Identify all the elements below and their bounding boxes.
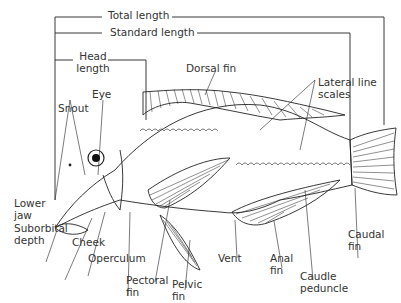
pectoral-fin bbox=[148, 158, 230, 208]
lateral-line-scales-label: Lateral line scales bbox=[318, 76, 380, 100]
lower-lateral-line bbox=[236, 163, 350, 165]
standard-length-label: Standard length bbox=[108, 26, 197, 38]
caudle-peduncle-label: Caudle peduncle bbox=[300, 270, 352, 294]
fish-anatomy-diagram: Total length Standard length Head length… bbox=[0, 0, 401, 303]
suborbital-depth-label: Suborbital depth bbox=[14, 222, 64, 246]
eye-label: Eye bbox=[92, 88, 111, 100]
dorsal-fin-label: Dorsal fin bbox=[186, 62, 236, 74]
snout-label: Snout bbox=[58, 102, 89, 114]
fish-body-outline bbox=[55, 104, 352, 228]
pelvic-fin-label: Pelvic fin bbox=[172, 278, 200, 302]
anal-fin bbox=[232, 180, 340, 225]
eye-pupil bbox=[92, 154, 100, 162]
vent-label: Vent bbox=[218, 252, 242, 264]
pectoral-fin-label: Pectoral fin bbox=[126, 274, 170, 298]
upper-lateral-line bbox=[140, 129, 218, 131]
lower-jaw-label: Lower jaw bbox=[14, 197, 44, 221]
fish-illustration bbox=[0, 0, 401, 303]
caudal-fin-label: Caudal fin bbox=[348, 228, 382, 252]
operculum-label: Operculum bbox=[88, 252, 146, 264]
operculum-edge bbox=[120, 150, 123, 210]
total-length-label: Total length bbox=[106, 9, 171, 21]
anal-fin-label: Anal fin bbox=[270, 252, 296, 276]
cheek-label: Cheek bbox=[72, 236, 105, 248]
head-length-label: Head length bbox=[76, 50, 110, 74]
nostril bbox=[69, 164, 72, 167]
